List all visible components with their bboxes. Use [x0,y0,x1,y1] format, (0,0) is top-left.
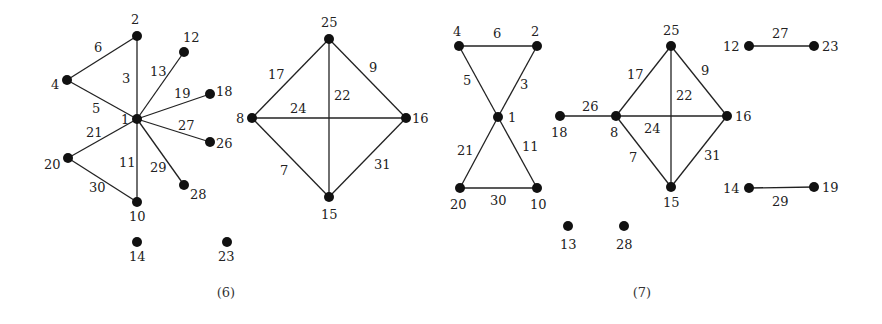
figure-caption-6: (6) [217,285,235,300]
edge-label: 31 [374,157,391,172]
vertex-label: 2 [131,12,139,27]
vertex-10 [532,183,542,193]
vertex-13 [563,221,573,231]
edge-label: 11 [119,155,136,170]
edge-label: 7 [629,150,637,165]
edge-label: 3 [520,77,528,92]
edge-26-1 [137,119,210,142]
vertex-8 [611,111,621,121]
vertex-label: 18 [216,84,233,99]
vertex-label: 10 [530,197,547,212]
edge-label: 29 [150,160,167,175]
edge-label: 9 [701,63,709,78]
edge-label: 31 [704,148,721,163]
edge-16-15 [329,118,406,197]
vertex-label: 20 [44,157,61,172]
graph-diagrams: 635131927292111301792224731 124121826282… [0,0,882,324]
vertices: 4212010188251615122314191328 [450,23,839,252]
vertex-label: 8 [236,111,244,126]
vertex-label: 25 [663,23,680,38]
edge-label: 22 [676,88,693,103]
edge-28-1 [137,119,184,185]
vertex-19 [809,182,819,192]
vertex-label: 15 [663,195,680,210]
vertex-label: 16 [735,109,752,124]
edge-label: 21 [457,143,474,158]
vertex-label: 10 [129,209,146,224]
edge-label: 17 [268,67,285,82]
vertex-label: 19 [822,180,839,195]
vertex-23 [222,237,232,247]
edge-14-19 [749,187,814,188]
edge-label: 26 [582,99,599,114]
vertex-label: 28 [190,187,207,202]
edge-label: 13 [150,64,167,79]
vertex-label: 18 [551,125,568,140]
vertex-28 [179,180,189,190]
graph-figure-7: 6532111302617922247312729 42120101882516… [450,23,839,300]
edge-label: 11 [522,139,539,154]
graph-figure-6: 635131927292111301792224731 124121826282… [44,12,429,300]
edge-label: 5 [463,73,471,88]
vertex-4 [454,41,464,51]
vertex-10 [132,197,142,207]
vertex-23 [809,41,819,51]
edge-label: 9 [369,60,377,75]
vertex-4 [62,75,72,85]
edge-label: 30 [490,193,507,208]
vertex-label: 2 [531,24,539,39]
edge-8-15 [252,118,329,197]
edge-label: 6 [94,40,102,55]
edge-label: 5 [92,101,100,116]
vertex-label: 23 [218,249,235,264]
vertex-14 [744,183,754,193]
edge-25-16 [329,39,406,118]
vertex-16 [401,113,411,123]
vertex-1 [493,112,503,122]
vertex-15 [666,182,676,192]
edge-label: 6 [493,26,501,41]
vertex-label: 26 [216,136,233,151]
vertex-18 [205,89,215,99]
vertex-20 [455,183,465,193]
edge-label: 30 [89,180,106,195]
vertex-label: 8 [610,125,618,140]
vertex-label: 15 [321,207,338,222]
vertex-14 [132,237,142,247]
vertex-2 [532,41,542,51]
edge-label: 21 [86,125,103,140]
vertex-label: 4 [51,77,59,92]
edge-2-1 [498,46,537,117]
edge-label: 22 [334,88,351,103]
vertex-12 [179,47,189,57]
vertex-28 [619,221,629,231]
vertex-2 [132,31,142,41]
edge-label: 19 [174,86,191,101]
vertex-label: 1 [121,112,129,127]
vertex-label: 16 [412,111,429,126]
vertex-label: 1 [508,110,516,125]
vertex-25 [324,34,334,44]
vertex-1 [132,114,142,124]
vertex-8 [247,113,257,123]
edge-label: 29 [772,194,789,209]
vertex-20 [63,153,73,163]
figure-caption-7: (7) [633,285,651,300]
vertex-15 [324,192,334,202]
vertex-label: 14 [129,249,146,264]
edge-label: 3 [122,71,130,86]
vertex-label: 4 [453,24,461,39]
edge-label: 17 [627,67,644,82]
edge-25-16 [671,46,727,116]
vertex-18 [555,111,565,121]
vertex-label: 12 [183,30,200,45]
vertex-12 [744,41,754,51]
edge-label: 27 [772,26,789,41]
vertex-label: 25 [321,15,338,30]
vertex-26 [205,137,215,147]
edge-label: 24 [644,121,661,136]
vertex-16 [722,111,732,121]
graph-figure-canvas: 635131927292111301792224731 124121826282… [0,0,882,324]
vertex-label: 12 [723,39,740,54]
vertex-label: 23 [822,39,839,54]
